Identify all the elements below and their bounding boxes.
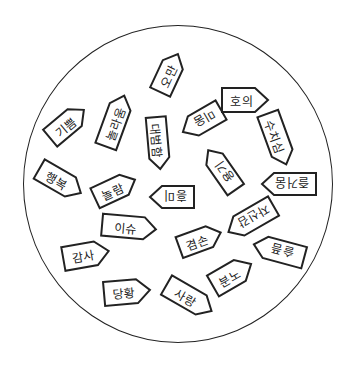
word-tag: 대범함 bbox=[146, 116, 170, 170]
tag-label: 당황 bbox=[103, 279, 144, 306]
word-tag: 즐거움 bbox=[262, 173, 316, 195]
word-tag: 당황 bbox=[103, 278, 151, 306]
tag-label: 대범함 bbox=[146, 116, 170, 164]
word-tag: 호의 bbox=[222, 88, 268, 112]
tag-label: 이슈 bbox=[101, 214, 151, 240]
tag-label: 즐거움 bbox=[268, 173, 316, 195]
tag-label: 호의 bbox=[222, 88, 262, 112]
tag-label: 흥미 bbox=[156, 186, 194, 208]
word-tag: 흥미 bbox=[150, 186, 194, 208]
word-tag: 이슈 bbox=[101, 214, 157, 241]
